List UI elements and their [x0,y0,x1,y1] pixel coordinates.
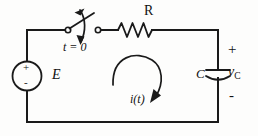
circuit-schematic-svg [0,0,258,136]
capacitor-voltage-label: vC [228,65,241,81]
current-label: i(t) [130,93,145,105]
capacitor-polarity-plus: + [228,42,236,57]
switch-blade [70,13,95,29]
circuit-diagram-canvas: R t = 0 E C vC i(t) + - + - [0,0,258,136]
switch-time-label: t = 0 [63,41,86,53]
voltage-source-label: E [52,68,61,82]
source-polarity-minus: - [24,77,28,88]
resistor-symbol [118,23,152,37]
capacitor-polarity-minus: - [229,88,234,103]
capacitor-voltage-subscript: C [234,71,240,81]
resistor-label: R [144,4,153,18]
switch-right-terminal-dot [95,27,100,32]
capacitor-label: C [196,67,205,80]
source-polarity-plus: + [23,62,29,73]
